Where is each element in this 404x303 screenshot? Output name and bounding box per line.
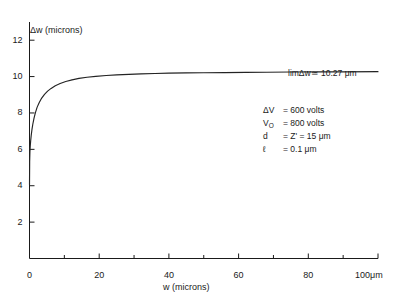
parameter-row: ΔV= 600 volts — [263, 104, 331, 117]
parameter-symbol: ℓ — [263, 143, 283, 156]
parameter-symbol: VO — [263, 117, 283, 131]
x-tick-label: 0 — [15, 271, 45, 280]
parameter-symbol: ΔV — [263, 104, 283, 117]
limit-annotation: limΔw≃ 10.27 μm — [288, 68, 357, 78]
x-tick-label: 20 — [84, 271, 114, 280]
plot-area — [0, 0, 404, 303]
x-axis-unit-label: 100μm — [355, 271, 383, 280]
parameter-symbol: d — [263, 130, 283, 143]
parameter-annotation-block: ΔV= 600 voltsVO= 800 voltsd= Z' = 15 μmℓ… — [263, 104, 331, 155]
x-axis-title: w (microns) — [163, 283, 210, 292]
parameter-value: = 800 volts — [283, 117, 324, 131]
y-tick-label: 2 — [5, 218, 23, 227]
parameter-row: VO= 800 volts — [263, 117, 331, 131]
y-tick-label: 10 — [5, 72, 23, 81]
parameter-value: = 600 volts — [283, 104, 324, 117]
y-tick-label: 4 — [5, 181, 23, 190]
parameter-value: = Z' = 15 μm — [283, 130, 331, 143]
chart-figure: 24681012 020406080 Δw (microns) w (micro… — [0, 0, 404, 303]
y-tick-label: 8 — [5, 108, 23, 117]
y-axis-title: Δw (microns) — [30, 26, 83, 35]
y-tick-label: 6 — [5, 145, 23, 154]
x-axis-ticks — [30, 254, 379, 259]
parameter-row: ℓ= 0.1 μm — [263, 143, 331, 156]
y-tick-label: 12 — [5, 36, 23, 45]
x-tick-label: 60 — [224, 271, 254, 280]
x-tick-label: 40 — [154, 271, 184, 280]
x-tick-label: 80 — [293, 271, 323, 280]
parameter-row: d= Z' = 15 μm — [263, 130, 331, 143]
parameter-value: = 0.1 μm — [283, 143, 316, 156]
